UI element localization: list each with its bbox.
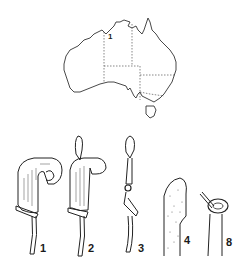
australia-outline-icon: [60, 0, 200, 120]
australia-distribution-map: 1: [60, 0, 200, 120]
orchid-tip-detail-icon: [160, 176, 200, 260]
figure-8-detail: 8: [198, 190, 242, 260]
figure-label: 4: [184, 234, 190, 246]
map-location-marker: 1: [108, 32, 112, 41]
orchid-stalk-illustration-icon: [114, 132, 154, 260]
figure-label: 2: [88, 242, 94, 254]
orchid-column-illustration-icon: [60, 132, 115, 260]
figure-4-detail: 4: [160, 176, 200, 260]
figure-label: 3: [138, 242, 144, 254]
figure-label: 8: [226, 236, 232, 248]
figure-3-column: 3: [114, 132, 154, 260]
figure-label: 1: [40, 242, 46, 254]
figure-2-labellum: 2: [60, 132, 115, 260]
orchid-coiled-tip-icon: [198, 190, 242, 260]
